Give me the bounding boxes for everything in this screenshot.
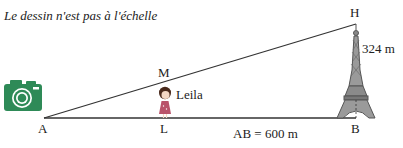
eiffel-tower-icon [337, 24, 375, 118]
point-H-label: H [350, 5, 359, 20]
diagram: Le dessin n'est pas à l'échelle A [0, 0, 403, 148]
segment-AH [44, 24, 356, 118]
girl-icon [159, 87, 171, 118]
camera-icon [4, 80, 42, 111]
scale-note: Le dessin n'est pas à l'échelle [3, 8, 157, 23]
point-A-label: A [38, 121, 48, 136]
distance-label: AB = 600 m [233, 126, 298, 141]
point-B-label: B [351, 121, 360, 136]
point-L-label: L [160, 121, 168, 136]
point-M-label: M [158, 65, 170, 80]
person-label: Leila [176, 87, 203, 102]
height-label: 324 m [362, 41, 395, 56]
